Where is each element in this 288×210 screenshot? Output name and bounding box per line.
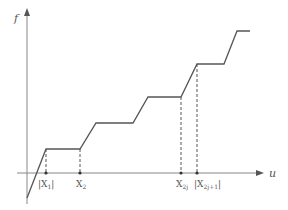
x-axis-label: u <box>269 167 276 180</box>
dashed-drop-lines <box>46 64 197 173</box>
label-x2j: X2j <box>176 179 188 191</box>
point-x2j1 <box>195 171 198 174</box>
x-axis-arrow-icon <box>256 170 264 176</box>
point-x2 <box>78 171 81 174</box>
point-x1 <box>44 171 47 174</box>
label-x2j1: |X2j+1| <box>194 179 221 191</box>
label-x2: X2 <box>76 179 86 190</box>
y-axis: f <box>13 8 30 204</box>
x-axis: u <box>17 167 276 180</box>
y-axis-arrow-icon <box>24 8 30 16</box>
step-function-diagram: f u |X1| X2 X2j |X2j+1| <box>0 0 288 210</box>
point-x2j <box>179 171 182 174</box>
y-axis-label: f <box>13 12 20 25</box>
label-x1: |X1| <box>38 179 54 190</box>
marker-labels: |X1| X2 X2j |X2j+1| <box>38 179 221 191</box>
